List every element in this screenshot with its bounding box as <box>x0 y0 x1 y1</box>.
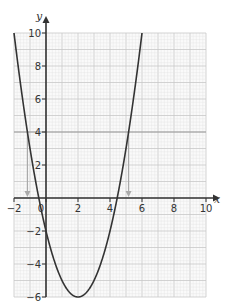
x-tick-label: 10 <box>200 203 213 214</box>
x-tick-label: 2 <box>75 203 81 214</box>
x-axis-label: x <box>214 193 221 206</box>
y-tick-label: −2 <box>26 226 41 237</box>
x-tick-label: 6 <box>139 203 145 214</box>
y-tick-label: 8 <box>35 61 41 72</box>
y-tick-label: 2 <box>35 160 41 171</box>
x-tick-label: 4 <box>107 203 113 214</box>
y-tick-label: 4 <box>35 127 41 138</box>
y-axis-label: y <box>35 10 43 23</box>
y-tick-label: 6 <box>35 94 41 105</box>
y-tick-label: −6 <box>26 292 41 302</box>
x-tick-label: −2 <box>7 203 22 214</box>
parabola-chart: −20246810−6−4−2246810 x y <box>0 0 231 302</box>
y-tick-label: 10 <box>28 28 41 39</box>
x-tick-label: 0 <box>38 203 44 214</box>
y-tick-label: −4 <box>26 259 41 270</box>
x-tick-label: 8 <box>171 203 177 214</box>
